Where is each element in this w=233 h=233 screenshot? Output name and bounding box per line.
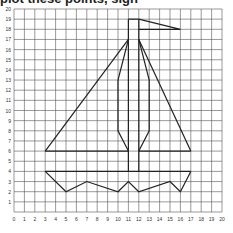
x-tick-label: 12 <box>136 216 142 222</box>
y-tick-label: 19 <box>5 16 11 22</box>
y-tick-label: 20 <box>5 6 11 12</box>
x-tick-label: 2 <box>33 216 36 222</box>
x-tick-label: 1 <box>23 216 26 222</box>
y-tick-label: 2 <box>8 189 11 195</box>
x-tick-label: 4 <box>54 216 57 222</box>
x-tick-label: 18 <box>198 216 204 222</box>
y-tick-label: 13 <box>5 77 11 83</box>
y-tick-label: 10 <box>5 108 11 114</box>
y-tick-label: 17 <box>5 36 11 42</box>
x-tick-label: 8 <box>96 216 99 222</box>
y-tick-label: 16 <box>5 47 11 53</box>
y-tick-label: 11 <box>6 97 11 103</box>
x-tick-label: 3 <box>44 216 47 222</box>
x-tick-label: 16 <box>178 216 184 222</box>
coordinate-grid: 0123456789101112131415161718192012345678… <box>0 0 233 233</box>
x-tick-label: 13 <box>146 216 152 222</box>
x-tick-label: 11 <box>126 216 131 222</box>
x-tick-label: 10 <box>115 216 121 222</box>
x-tick-label: 9 <box>106 216 109 222</box>
y-tick-label: 12 <box>5 87 11 93</box>
x-tick-label: 6 <box>75 216 78 222</box>
x-axis-labels: 01234567891011121314151617181920 <box>13 216 225 222</box>
x-tick-label: 17 <box>188 216 194 222</box>
x-tick-label: 14 <box>157 216 163 222</box>
x-tick-label: 0 <box>13 216 16 222</box>
x-tick-label: 5 <box>65 216 68 222</box>
y-tick-label: 15 <box>5 57 11 63</box>
x-tick-label: 7 <box>85 216 88 222</box>
y-tick-label: 18 <box>5 26 11 32</box>
y-axis-labels: 1234567891011121314151617181920 <box>5 6 11 205</box>
y-tick-label: 6 <box>8 148 11 154</box>
y-tick-label: 14 <box>5 67 11 73</box>
y-tick-label: 7 <box>8 138 11 144</box>
y-tick-label: 8 <box>8 128 11 134</box>
x-tick-label: 15 <box>167 216 173 222</box>
y-tick-label: 4 <box>8 168 11 174</box>
y-tick-label: 5 <box>8 158 11 164</box>
right-sail-inner <box>139 39 149 151</box>
y-tick-label: 3 <box>8 179 11 185</box>
x-tick-label: 20 <box>219 216 225 222</box>
right-sail-edge <box>139 39 191 151</box>
left-sail-inner <box>118 39 128 151</box>
y-tick-label: 9 <box>8 118 11 124</box>
y-tick-label: 1 <box>8 199 11 205</box>
x-tick-label: 19 <box>209 216 215 222</box>
